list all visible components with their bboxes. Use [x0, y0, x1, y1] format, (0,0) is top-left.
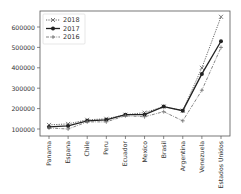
x-axis: PanamaEspanaChilePeruEcuadorMexicoBrasil…: [45, 136, 224, 188]
y-tick-label: 100000: [11, 126, 35, 133]
x-tick-label: Peru: [102, 141, 109, 155]
legend-label: 2017: [63, 25, 80, 33]
line-chart: 100000200000300000400000500000600000 Pan…: [0, 0, 241, 194]
y-tick-label: 200000: [11, 105, 35, 112]
y-tick-label: 500000: [11, 44, 35, 51]
legend: 201820172016: [43, 14, 85, 44]
y-axis: 100000200000300000400000500000600000: [11, 24, 40, 133]
x-tick-label: Venezuela: [198, 141, 205, 173]
x-tick-label: Estados Unidos: [217, 141, 224, 188]
x-tick-label: Brasil: [160, 141, 167, 159]
x-tick-label: Mexico: [141, 141, 148, 163]
y-tick-label: 300000: [11, 85, 35, 92]
legend-label: 2018: [63, 16, 80, 24]
x-tick-label: Espana: [64, 141, 72, 164]
x-tick-label: Panama: [45, 141, 52, 166]
y-tick-label: 400000: [11, 64, 35, 71]
x-tick-label: Ecuador: [121, 141, 128, 167]
legend-label: 2016: [63, 33, 80, 41]
y-tick-label: 600000: [11, 24, 35, 31]
x-tick-label: Chile: [83, 141, 90, 157]
x-tick-label: Argentina: [179, 141, 187, 171]
